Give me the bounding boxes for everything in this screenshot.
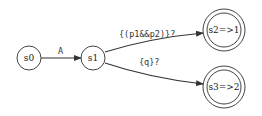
edge-s1-s2: {(p1&&p2)}? — [105, 29, 203, 52]
node-s0: s0 — [17, 46, 41, 70]
node-label: s0 — [24, 53, 35, 63]
node-s1: s1 — [81, 46, 105, 70]
node-s2: s2=>1 — [203, 9, 245, 51]
edge-s1-s3: {q}? — [105, 57, 203, 84]
edge-s0-s1: A — [41, 46, 81, 58]
node-label: s1 — [88, 53, 98, 63]
node-label: s2=>1 — [208, 25, 239, 35]
edge-label: {q}? — [139, 57, 159, 67]
node-label: s3=>2 — [208, 82, 239, 92]
edge-label: A — [58, 46, 63, 56]
edge-label: {(p1&&p2)}? — [119, 29, 175, 39]
node-s3: s3=>2 — [203, 66, 245, 108]
state-diagram: A {(p1&&p2)}? {q}? s0 s1 s2=>1 s3=>2 — [0, 0, 262, 116]
